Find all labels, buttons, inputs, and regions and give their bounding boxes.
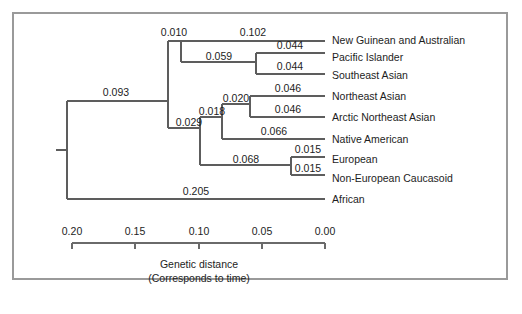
leaf-label-pacific-islander: Pacific Islander <box>332 51 404 63</box>
label-branch-northeast-pair-stem: 0.020 <box>223 92 249 104</box>
leaf-label-new-guinean-australian: New Guinean and Australian <box>332 34 465 46</box>
phylogenetic-tree: 0.102 0.010 0.044 0.059 0.044 0.093 0.04… <box>0 0 522 314</box>
leaf-label-non-european-caucasoid: Non-European Caucasoid <box>332 172 453 184</box>
leaf-label-native-american: Native American <box>332 133 409 145</box>
axis-tick-label-3: 0.05 <box>252 225 273 237</box>
label-branch-caucasoid-stem: 0.068 <box>233 153 259 165</box>
label-branch-african: 0.205 <box>183 185 209 197</box>
label-branch-native-american: 0.066 <box>261 125 287 137</box>
label-branch-arctic-northeast-asian: 0.046 <box>275 103 301 115</box>
axis-tick-label-2: 0.10 <box>189 225 210 237</box>
leaf-label-southeast-asian: Southeast Asian <box>332 69 408 81</box>
axis-tick-label-4: 0.00 <box>315 225 336 237</box>
label-branch-new-guinean-australian: 0.102 <box>240 26 266 38</box>
axis-title-line1: Genetic distance <box>160 258 238 270</box>
leaf-label-northeast-asian: Northeast Asian <box>332 90 406 102</box>
label-branch-amerasian-caucasoid-stem: 0.029 <box>176 116 202 128</box>
figure-page: 0.102 0.010 0.044 0.059 0.044 0.093 0.04… <box>0 0 522 314</box>
axis-title-line2: (Corresponds to time) <box>148 272 250 284</box>
label-branch-northeast-asian: 0.046 <box>275 82 301 94</box>
leaf-label-african: African <box>332 193 365 205</box>
leaf-label-european: European <box>332 153 378 165</box>
label-branch-european: 0.015 <box>295 143 321 155</box>
leaf-label-arctic-northeast-asian: Arctic Northeast Asian <box>332 111 435 123</box>
axis-tick-label-0: 0.20 <box>62 225 83 237</box>
label-branch-southeast-asian: 0.044 <box>277 60 303 72</box>
label-branch-pacific-islander: 0.044 <box>277 39 303 51</box>
label-branch-oceanic-stem: 0.010 <box>161 26 187 38</box>
label-branch-northeast-native-stem: 0.018 <box>199 105 225 117</box>
axis-tick-label-1: 0.15 <box>125 225 146 237</box>
label-branch-non-european-caucasoid: 0.015 <box>295 162 321 174</box>
label-branch-pacific-seasian-stem: 0.059 <box>206 50 232 62</box>
label-branch-non-african: 0.093 <box>103 86 129 98</box>
